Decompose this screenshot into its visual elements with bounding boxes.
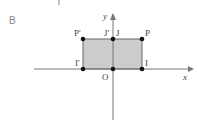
point-i-prime: [81, 67, 86, 72]
label-p: P: [145, 29, 150, 38]
point-o: [111, 67, 116, 72]
label-p-prime: P': [74, 29, 81, 38]
y-axis-arrow-icon: [110, 13, 116, 20]
label-j-prime: J': [104, 29, 109, 38]
label-j: J: [116, 29, 120, 38]
coordinate-diagram: [0, 0, 197, 127]
point-i: [140, 67, 145, 72]
label-i-prime: I': [75, 59, 80, 68]
y-axis-label: y: [103, 12, 107, 21]
x-axis-arrow-icon: [188, 66, 194, 72]
point-p: [140, 37, 145, 42]
point-p-prime: [81, 37, 86, 42]
label-origin: O: [102, 73, 109, 82]
point-j: [111, 37, 116, 42]
label-i: I: [145, 59, 148, 68]
x-axis-label: x: [183, 73, 187, 82]
